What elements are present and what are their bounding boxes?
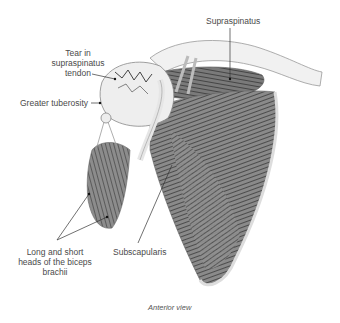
biceps-brachii bbox=[87, 143, 130, 229]
label-tear-supraspinatus-tendon: Tear in supraspinatus tendon bbox=[48, 48, 108, 78]
figure-caption: Anterior view bbox=[148, 303, 191, 312]
label-biceps-line3: brachii bbox=[14, 267, 96, 277]
label-tear-line2: supraspinatus bbox=[48, 58, 108, 68]
label-biceps-line1: Long and short bbox=[14, 247, 96, 257]
label-biceps-brachii: Long and short heads of the biceps brach… bbox=[14, 247, 96, 277]
label-greater-tuberosity: Greater tuberosity bbox=[20, 98, 88, 108]
label-tear-line1: Tear in bbox=[48, 48, 108, 58]
label-biceps-line2: heads of the biceps bbox=[14, 257, 96, 267]
label-subscapularis: Subscapularis bbox=[113, 247, 166, 257]
label-supraspinatus: Supraspinatus bbox=[206, 16, 260, 26]
label-tear-line3: tendon bbox=[48, 68, 108, 78]
